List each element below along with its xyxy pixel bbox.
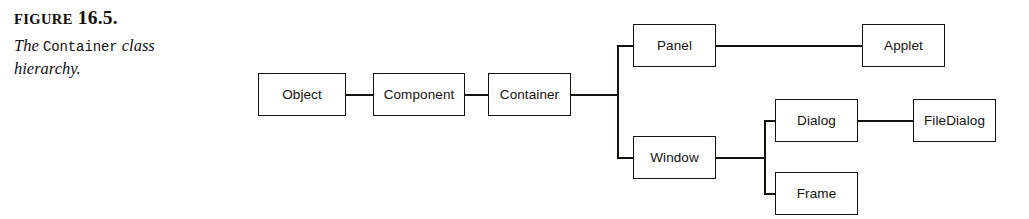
connector-panel-applet [716, 45, 862, 47]
connector-trunk-window [617, 157, 633, 159]
connector-component-container [465, 94, 488, 96]
node-label-container: Container [500, 87, 559, 102]
node-label-dialog: Dialog [797, 113, 836, 128]
connector-window-trunk2 [716, 157, 765, 159]
node-container[interactable]: Container [488, 73, 571, 116]
connector-trunk2-dialog [764, 120, 775, 122]
node-filedialog[interactable]: FileDialog [913, 99, 996, 142]
node-applet[interactable]: Applet [862, 24, 945, 67]
node-label-panel: Panel [657, 38, 692, 53]
node-dialog[interactable]: Dialog [775, 99, 858, 142]
connector-object-component [346, 94, 373, 96]
connector-trunk-window-children [764, 120, 766, 194]
node-label-filedialog: FileDialog [924, 113, 985, 128]
figure-container: FIGURE 16.5. The Container class hierarc… [0, 0, 1029, 219]
node-label-applet: Applet [884, 38, 923, 53]
connector-trunk-container [617, 45, 619, 158]
node-label-frame: Frame [797, 186, 837, 201]
node-frame[interactable]: Frame [775, 172, 858, 215]
connector-dialog-filedialog [858, 120, 913, 122]
connector-trunk-panel [617, 45, 633, 47]
node-object[interactable]: Object [258, 73, 346, 116]
node-panel[interactable]: Panel [633, 24, 716, 67]
class-hierarchy-diagram: ObjectComponentContainerPanelAppletWindo… [0, 0, 1029, 219]
node-label-object: Object [282, 87, 322, 102]
node-label-window: Window [650, 150, 699, 165]
node-label-component: Component [384, 87, 455, 102]
connector-container-trunk [571, 94, 619, 96]
connector-trunk2-frame [764, 193, 775, 195]
node-component[interactable]: Component [373, 73, 465, 116]
node-window[interactable]: Window [633, 136, 716, 179]
